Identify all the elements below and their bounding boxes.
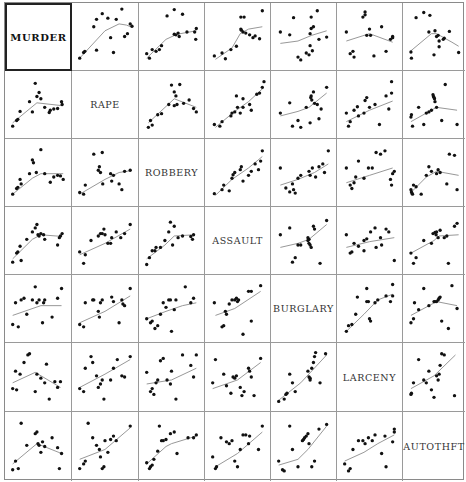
data-point <box>52 107 55 110</box>
data-point <box>148 256 151 259</box>
data-point <box>151 463 154 466</box>
scatter-plot <box>139 275 204 342</box>
data-point <box>28 352 31 355</box>
data-point <box>84 367 87 370</box>
data-point <box>412 317 415 320</box>
data-point <box>230 439 233 442</box>
data-point <box>357 114 360 117</box>
data-point <box>25 238 28 241</box>
data-point <box>145 317 148 320</box>
data-point <box>159 313 162 316</box>
data-point <box>349 467 352 470</box>
data-point <box>371 166 374 169</box>
data-point <box>250 109 253 112</box>
data-point <box>387 230 390 233</box>
data-point <box>78 387 81 390</box>
data-point <box>409 321 412 324</box>
scatter-panel <box>139 207 205 275</box>
data-point <box>129 223 132 226</box>
data-point <box>56 243 59 246</box>
data-point <box>43 172 46 175</box>
smoother-line <box>148 99 196 123</box>
data-point <box>195 27 198 30</box>
scatter-panel <box>139 412 205 481</box>
data-point <box>178 83 181 86</box>
data-point <box>250 290 253 293</box>
data-point <box>417 308 420 311</box>
data-point <box>307 238 310 241</box>
data-point <box>433 29 436 32</box>
data-point <box>436 34 439 37</box>
smoother-line <box>280 225 326 248</box>
data-point <box>357 159 360 162</box>
data-point <box>174 397 177 400</box>
data-point <box>82 262 85 265</box>
data-point <box>378 123 381 126</box>
scatter-plot <box>5 207 71 274</box>
data-point <box>211 455 214 458</box>
data-point <box>129 355 132 358</box>
data-point <box>312 90 315 93</box>
scatter-panel <box>205 412 271 481</box>
data-point <box>277 459 280 462</box>
data-point <box>43 238 46 241</box>
data-point <box>455 222 458 225</box>
data-point <box>220 51 223 54</box>
data-point <box>78 250 81 253</box>
data-point <box>91 436 94 439</box>
data-point <box>120 188 123 191</box>
data-point <box>313 459 316 462</box>
data-point <box>379 236 382 239</box>
data-point <box>384 465 387 468</box>
data-point <box>248 103 251 106</box>
data-point <box>390 91 393 94</box>
data-point <box>123 170 126 173</box>
data-point <box>34 390 37 393</box>
data-point <box>393 170 396 173</box>
data-point <box>98 315 101 318</box>
data-point <box>453 394 456 397</box>
data-point <box>288 226 291 229</box>
data-point <box>176 236 179 239</box>
data-point <box>173 8 176 11</box>
data-point <box>314 175 317 178</box>
data-point <box>367 436 370 439</box>
variable-label: ASSAULT <box>205 207 270 274</box>
data-point <box>117 321 120 324</box>
data-point <box>185 30 188 33</box>
data-point <box>17 325 20 328</box>
data-point <box>192 233 195 236</box>
data-point <box>156 113 159 116</box>
data-point <box>438 229 441 232</box>
data-point <box>253 162 256 165</box>
data-point <box>112 367 115 370</box>
data-point <box>34 285 37 288</box>
scatter-panel <box>337 275 403 343</box>
data-point <box>317 427 320 430</box>
data-point <box>440 319 443 322</box>
data-point <box>279 166 282 169</box>
data-point <box>228 189 231 192</box>
scatter-plot <box>271 343 336 411</box>
diagonal-label-cell: LARCENY <box>337 343 403 412</box>
data-point <box>437 45 440 48</box>
data-point <box>151 123 154 126</box>
data-point <box>448 30 451 33</box>
data-point <box>318 262 321 265</box>
data-point <box>393 427 396 430</box>
data-point <box>363 99 366 102</box>
data-point <box>158 48 161 51</box>
data-point <box>99 301 102 304</box>
data-point <box>444 83 447 86</box>
data-point <box>430 109 433 112</box>
data-point <box>163 239 166 242</box>
data-point <box>169 432 172 435</box>
data-point <box>110 236 113 239</box>
data-point <box>229 114 232 117</box>
data-point <box>239 448 242 451</box>
data-point <box>296 177 299 180</box>
scatter-panel <box>271 412 337 481</box>
data-point <box>50 436 53 439</box>
data-point <box>112 434 115 437</box>
data-point <box>160 44 163 47</box>
